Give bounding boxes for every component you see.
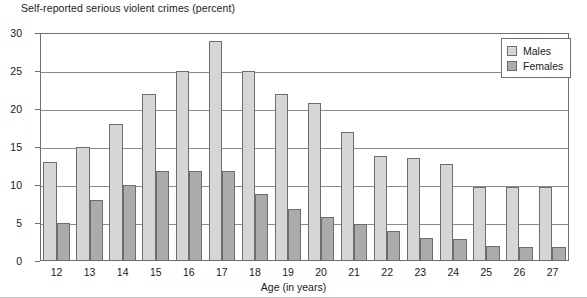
bar-males-age-15 <box>142 94 155 261</box>
bar-males-age-14 <box>109 124 122 261</box>
x-axis-tick-label: 24 <box>447 266 459 278</box>
y-axis-tick-mark <box>35 261 40 262</box>
bar-males-age-26 <box>506 187 519 261</box>
legend-label-males: Males <box>523 45 551 57</box>
x-axis-tick-label: 14 <box>117 266 129 278</box>
y-axis-tick-label: 20 <box>0 103 22 115</box>
bar-males-age-25 <box>473 187 486 261</box>
y-axis-tick-mark <box>35 33 40 34</box>
bar-females-age-19 <box>288 209 301 261</box>
bar-males-age-18 <box>242 71 255 261</box>
x-axis-tick-label: 26 <box>514 266 526 278</box>
bar-males-age-17 <box>209 41 222 261</box>
x-axis-tick-label: 16 <box>183 266 195 278</box>
y-axis-tick-label: 25 <box>0 65 22 77</box>
x-axis-tick-label: 23 <box>414 266 426 278</box>
x-axis-tick-label: 21 <box>348 266 360 278</box>
bar-females-age-20 <box>321 217 334 261</box>
bar-males-age-22 <box>374 156 387 261</box>
legend-item-males[interactable]: Males <box>507 43 563 58</box>
legend-label-females: Females <box>523 60 563 72</box>
y-axis-tick-label: 30 <box>0 27 22 39</box>
y-axis-tick-mark <box>35 147 40 148</box>
bar-males-age-27 <box>539 187 552 261</box>
bar-females-age-24 <box>453 239 466 261</box>
bar-females-age-23 <box>420 238 433 261</box>
bar-males-age-20 <box>308 103 321 261</box>
y-axis-tick-label: 0 <box>0 255 22 267</box>
chart-figure: Self-reported serious violent crimes (pe… <box>0 0 587 298</box>
x-axis-tick-label: 13 <box>84 266 96 278</box>
x-axis-tick-label: 17 <box>216 266 228 278</box>
bar-females-age-18 <box>255 194 268 261</box>
legend-item-females[interactable]: Females <box>507 58 563 73</box>
y-axis-tick-mark <box>35 185 40 186</box>
bar-males-age-19 <box>275 94 288 261</box>
x-axis-tick-label: 27 <box>547 266 559 278</box>
bar-females-age-12 <box>57 223 70 261</box>
x-axis-tick-label: 22 <box>381 266 393 278</box>
bar-females-age-25 <box>486 246 499 261</box>
bar-males-age-16 <box>176 71 189 261</box>
x-axis-tick-label: 15 <box>150 266 162 278</box>
bar-females-age-17 <box>222 171 235 261</box>
bar-males-age-21 <box>341 132 354 261</box>
bar-females-age-13 <box>90 200 103 261</box>
x-axis-tick-label: 25 <box>481 266 493 278</box>
legend-swatch-males-icon <box>507 46 517 56</box>
gridline <box>41 110 568 111</box>
bar-females-age-14 <box>123 185 136 261</box>
bar-males-age-13 <box>76 147 89 261</box>
bar-females-age-26 <box>519 247 532 261</box>
y-axis-tick-label: 10 <box>0 179 22 191</box>
bar-males-age-23 <box>407 158 420 261</box>
x-axis-tick-label: 18 <box>249 266 261 278</box>
y-axis-tick-label: 15 <box>0 141 22 153</box>
bar-males-age-24 <box>440 164 453 261</box>
y-axis-tick-mark <box>35 71 40 72</box>
chart-legend: Males Females <box>501 38 571 78</box>
y-axis-tick-mark <box>35 109 40 110</box>
bar-females-age-22 <box>387 231 400 261</box>
bar-females-age-27 <box>552 247 565 261</box>
x-axis-tick-label: 20 <box>315 266 327 278</box>
plot-wrapper: 051015202530 121314151617181920212223242… <box>0 0 587 298</box>
gridline <box>41 72 568 73</box>
bar-females-age-21 <box>354 224 367 261</box>
legend-swatch-females-icon <box>507 61 517 71</box>
bar-males-age-12 <box>43 162 56 261</box>
bar-females-age-15 <box>156 171 169 261</box>
y-axis-tick-mark <box>35 223 40 224</box>
x-axis-tick-label: 19 <box>282 266 294 278</box>
bar-females-age-16 <box>189 171 202 261</box>
x-axis-title: Age (in years) <box>0 281 587 293</box>
y-axis-tick-label: 5 <box>0 217 22 229</box>
x-axis-tick-label: 12 <box>51 266 63 278</box>
